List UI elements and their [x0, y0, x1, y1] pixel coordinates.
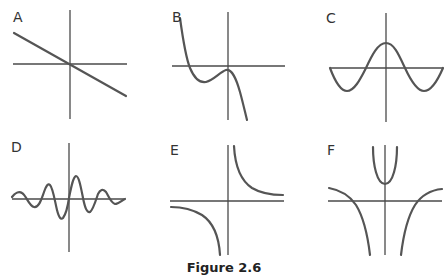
- panel-b-label: B: [172, 10, 182, 24]
- panel-b-curve: [180, 18, 247, 120]
- panel-d-label: D: [11, 140, 22, 154]
- figure-caption: Figure 2.6: [0, 260, 448, 275]
- panel-d-graph: [12, 143, 125, 252]
- panel-c-label: C: [326, 11, 336, 25]
- panel-e-curve-upper: [234, 146, 283, 195]
- panel-f-graph: [328, 145, 442, 255]
- panel-b-graph: [172, 12, 285, 120]
- panel-e-curve-lower: [171, 207, 220, 255]
- panel-e-graph: [170, 145, 284, 255]
- panel-a-label: A: [13, 10, 23, 24]
- panel-f-curve-right: [401, 189, 442, 255]
- panel-f-label: F: [327, 143, 335, 157]
- figure-canvas: [0, 0, 448, 278]
- panel-c-graph: [330, 13, 443, 122]
- panel-e-label: E: [170, 143, 179, 157]
- panel-f-curve-left: [329, 188, 370, 255]
- panel-a-graph: [13, 10, 127, 119]
